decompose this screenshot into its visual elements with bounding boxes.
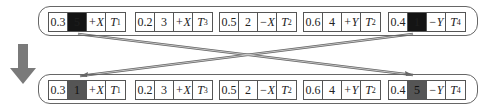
axis-cell: −Y	[427, 13, 446, 31]
entry-group-2: 0.2 3 +X T3	[135, 12, 213, 32]
t-cell: T2	[277, 13, 296, 31]
t-cell: T2	[361, 13, 380, 31]
t-cell: T4	[446, 81, 465, 99]
value-cell: 0.3	[49, 81, 68, 99]
axis-cell: +Y	[342, 13, 361, 31]
entry-group-1: 0.3 5 +X T1	[48, 12, 126, 32]
highlighted-index-cell: 1	[408, 13, 427, 31]
index-cell: 2	[239, 13, 258, 31]
axis-cell: −Y	[427, 81, 446, 99]
entry-group-3: 0.5 2 −X T2	[219, 80, 297, 100]
swap-arrows	[78, 34, 413, 76]
t-cell: T1	[106, 81, 125, 99]
index-cell: 3	[155, 81, 174, 99]
highlighted-index-cell: 5	[68, 13, 87, 31]
bottom-row: 0.3 1 +X T1 0.2 3 +X T3 0.5 2 −X T2 0.6 …	[38, 74, 478, 104]
top-row: 0.3 5 +X T1 0.2 3 +X T3 0.5 2 −X T2 0.6 …	[38, 6, 478, 36]
index-cell: 2	[239, 81, 258, 99]
axis-cell: +X	[174, 13, 193, 31]
t-cell: T3	[193, 13, 212, 31]
highlighted-index-cell: 5	[408, 81, 427, 99]
value-cell: 0.5	[220, 13, 239, 31]
index-cell: 4	[323, 13, 342, 31]
entry-group-3: 0.5 2 −X T2	[219, 12, 297, 32]
highlighted-index-cell: 1	[68, 81, 87, 99]
entry-group-5: 0.4 5 −Y T4	[388, 80, 466, 100]
t-cell: T4	[446, 13, 465, 31]
value-cell: 0.2	[136, 13, 155, 31]
t-cell: T3	[193, 81, 212, 99]
axis-cell: −X	[258, 13, 277, 31]
entry-group-4: 0.6 4 +Y T2	[303, 80, 381, 100]
axis-cell: +X	[87, 13, 106, 31]
t-cell: T2	[277, 81, 296, 99]
value-cell: 0.3	[49, 13, 68, 31]
value-cell: 0.6	[304, 81, 323, 99]
axis-cell: −X	[258, 81, 277, 99]
entry-group-4: 0.6 4 +Y T2	[303, 12, 381, 32]
t-cell: T2	[361, 81, 380, 99]
value-cell: 0.2	[136, 81, 155, 99]
t-cell: T1	[106, 13, 125, 31]
entry-group-5: 0.4 1 −Y T4	[388, 12, 466, 32]
value-cell: 0.4	[389, 13, 408, 31]
value-cell: 0.4	[389, 81, 408, 99]
value-cell: 0.5	[220, 81, 239, 99]
index-cell: 3	[155, 13, 174, 31]
axis-cell: +X	[174, 81, 193, 99]
index-cell: 4	[323, 81, 342, 99]
entry-group-2: 0.2 3 +X T3	[135, 80, 213, 100]
axis-cell: +X	[87, 81, 106, 99]
entry-group-1: 0.3 1 +X T1	[48, 80, 126, 100]
value-cell: 0.6	[304, 13, 323, 31]
axis-cell: +Y	[342, 81, 361, 99]
